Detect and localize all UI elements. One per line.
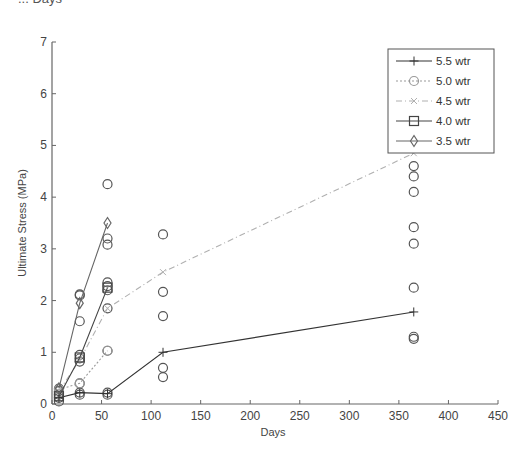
legend-label: 4.5 wtr [436, 95, 471, 107]
circle-marker-icon [409, 239, 418, 248]
x-tick-label: 400 [438, 409, 458, 423]
circle-marker-icon [159, 363, 168, 372]
x-tick-label: 250 [290, 409, 310, 423]
x-marker-icon [160, 269, 166, 275]
circle-marker [159, 230, 168, 239]
line-chart: 05010015020025030035040045001234567DaysU… [0, 0, 527, 458]
y-tick-label: 1 [40, 345, 47, 359]
plus-marker-icon [159, 348, 168, 357]
y-tick-label: 3 [40, 242, 47, 256]
circle-marker-icon [409, 187, 418, 196]
y-tick-label: 5 [40, 138, 47, 152]
circle-marker-icon [409, 283, 418, 292]
circle-marker [409, 172, 418, 181]
circle-marker [103, 180, 112, 189]
circle-marker-icon [409, 162, 418, 171]
x-tick-label: 0 [49, 409, 56, 423]
legend-label: 5.0 wtr [436, 75, 471, 87]
y-tick-label: 7 [40, 35, 47, 49]
circle-marker [409, 239, 418, 248]
y-tick-label: 4 [40, 190, 47, 204]
circle-marker-icon [409, 334, 418, 343]
series-4-0-wtr [54, 283, 112, 401]
circle-marker [159, 312, 168, 321]
x-tick-label: 300 [339, 409, 359, 423]
circle-marker [409, 162, 418, 171]
circle-marker [103, 240, 112, 249]
x-marker-icon [105, 305, 111, 311]
circle-marker-icon [409, 223, 418, 232]
plus-marker-icon [103, 389, 112, 398]
circle-marker [409, 332, 418, 341]
circle-marker-icon [103, 180, 112, 189]
plus-marker-icon [409, 307, 418, 316]
x-tick-label: 350 [389, 409, 409, 423]
legend-label: 4.0 wtr [436, 115, 471, 127]
scatter-points [54, 162, 418, 406]
y-axis-label: Ultimate Stress (MPa) [16, 169, 28, 277]
circle-marker [159, 373, 168, 382]
series-line [59, 312, 414, 398]
x-tick-label: 50 [95, 409, 109, 423]
circle-marker [409, 283, 418, 292]
legend: 5.5 wtr5.0 wtr4.5 wtr4.0 wtr3.5 wtr [388, 49, 494, 153]
circle-marker-icon [159, 373, 168, 382]
circle-marker-icon [159, 312, 168, 321]
y-tick-label: 0 [40, 397, 47, 411]
circle-marker-icon [409, 172, 418, 181]
x-axis-label: Days [260, 426, 286, 438]
circle-marker [409, 187, 418, 196]
circle-marker [159, 287, 168, 296]
x-tick-label: 100 [141, 409, 161, 423]
series-line [59, 153, 414, 391]
legend-label: 5.5 wtr [436, 55, 471, 67]
series-4-5-wtr [56, 150, 417, 394]
x-tick-label: 450 [488, 409, 508, 423]
y-tick-label: 2 [40, 294, 47, 308]
x-tick-label: 150 [191, 409, 211, 423]
x-tick-label: 200 [240, 409, 260, 423]
circle-marker-icon [159, 230, 168, 239]
circle-marker-icon [159, 287, 168, 296]
legend-label: 3.5 wtr [436, 135, 471, 147]
circle-marker-icon [103, 240, 112, 249]
circle-marker [409, 223, 418, 232]
circle-marker-icon [409, 332, 418, 341]
y-tick-label: 6 [40, 87, 47, 101]
circle-marker [159, 363, 168, 372]
circle-marker [409, 334, 418, 343]
